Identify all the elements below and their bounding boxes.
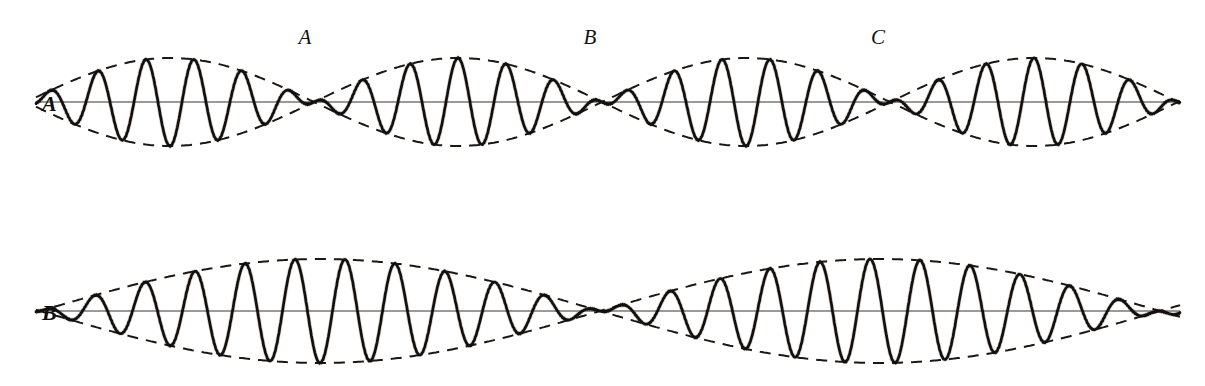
beat-marker-a: A <box>297 25 312 49</box>
trace-a-label: A <box>40 91 57 116</box>
beat-marker-group: A B C <box>297 25 886 49</box>
trace-b-group: B <box>36 259 1180 363</box>
figure-plate: A B A B C <box>0 0 1205 386</box>
trace-b-wave <box>36 259 1180 363</box>
beat-marker-b: B <box>584 25 597 49</box>
trace-a-group: A <box>36 58 1180 147</box>
beats-diagram: A B A B C <box>0 0 1205 386</box>
trace-b-label: B <box>41 300 57 325</box>
beat-marker-c: C <box>871 25 886 49</box>
trace-a-envelope-upper <box>36 58 1180 102</box>
